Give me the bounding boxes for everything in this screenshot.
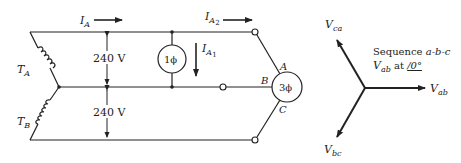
terminal-label-A: A [279,61,287,72]
circuit-diagram: 240 V 240 V 1ϕ IA1 IA IA2 3ϕ A B C TA TB… [0,0,461,163]
phasor-Vbc-arrow [337,88,365,137]
phasor-label-Vab: Vab [430,82,448,97]
voltage-label-top: 240 V [93,52,126,65]
phasor-label-Vca: Vca [325,18,342,33]
transformer-TA-coil [30,32,59,87]
node-mid-1phase [170,85,174,89]
voltage-label-bottom: 240 V [93,106,126,119]
current-label-IA2: IA2 [204,10,220,27]
terminal-top [252,29,258,35]
phasor-label-Vbc: Vbc [324,143,342,158]
transformer-TB-coil [30,87,59,140]
terminal-label-C: C [279,104,287,115]
terminal-bottom [252,137,258,143]
three-phase-label: 3ϕ [279,82,292,93]
terminal-mid [220,84,226,90]
neutral-node [57,85,61,89]
diagram-svg: 240 V 240 V 1ϕ IA1 IA IA2 3ϕ A B C TA TB… [0,0,461,163]
transformer-label-TA: TA [17,63,30,78]
sequence-text: Sequence a-b-c [373,46,451,57]
current-label-IA1: IA1 [201,42,217,59]
phasor-Vca-arrow [337,40,365,88]
single-phase-label: 1ϕ [164,54,177,65]
node-top-1phase [170,30,174,34]
reference-text: Vab at /0° [373,59,422,74]
terminal-label-B: B [260,75,268,86]
current-label-IA: IA [79,14,90,29]
transformer-label-TB: TB [17,115,30,130]
